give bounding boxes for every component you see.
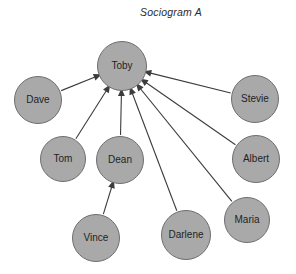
node-label: Toby bbox=[111, 61, 132, 71]
node-label: Stevie bbox=[241, 94, 269, 104]
edge-line bbox=[76, 88, 108, 138]
edge-line bbox=[61, 76, 97, 91]
node-vince[interactable]: Vince bbox=[72, 214, 120, 262]
edge-line bbox=[121, 92, 122, 135]
node-albert[interactable]: Albert bbox=[232, 135, 280, 183]
edge-maria-to-toby bbox=[136, 83, 232, 201]
node-tom[interactable]: Tom bbox=[40, 136, 86, 182]
edge-albert-to-toby bbox=[140, 79, 235, 145]
node-dave[interactable]: Dave bbox=[14, 76, 62, 124]
edge-tom-to-toby bbox=[76, 85, 110, 139]
node-label: Albert bbox=[243, 154, 269, 164]
node-darlene[interactable]: Darlene bbox=[161, 210, 211, 260]
node-label: Dean bbox=[108, 155, 132, 165]
node-toby[interactable]: Toby bbox=[97, 41, 147, 91]
edge-line bbox=[148, 72, 231, 93]
edge-vince-to-dean bbox=[103, 180, 114, 214]
node-label: Vince bbox=[84, 233, 109, 243]
edge-dave-to-toby bbox=[61, 74, 101, 91]
node-stevie[interactable]: Stevie bbox=[231, 75, 279, 123]
node-label: Tom bbox=[54, 154, 73, 164]
edge-line bbox=[103, 184, 112, 214]
node-label: Darlene bbox=[168, 230, 203, 240]
edge-dean-to-toby bbox=[118, 88, 125, 135]
node-label: Dave bbox=[26, 95, 49, 105]
edge-line bbox=[139, 87, 232, 202]
node-dean[interactable]: Dean bbox=[96, 136, 144, 184]
node-maria[interactable]: Maria bbox=[224, 197, 270, 243]
sociogram-diagram: Sociogram A TobyDaveStevieTomDeanAlbertV… bbox=[0, 0, 296, 274]
node-label: Maria bbox=[234, 215, 259, 225]
